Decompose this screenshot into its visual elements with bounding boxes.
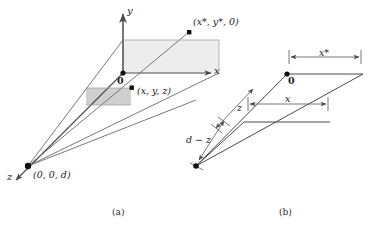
panel-b-origin-label: 0 (288, 76, 295, 86)
x-star-dimension-label: x* (319, 48, 329, 58)
center-of-projection-label: (0, 0, d) (33, 170, 71, 180)
object-plane-shape (86, 88, 131, 105)
panel-a-graphics (16, 14, 219, 180)
x-axis-label: x (214, 66, 220, 76)
z-dimension-label: z (237, 103, 242, 113)
panel-b-caption: (b) (279, 208, 292, 217)
image-point-marker (187, 30, 191, 34)
figure-canvas (0, 0, 376, 226)
image-point-label: (x*, y*, 0) (193, 17, 239, 27)
image-plane-shape (123, 40, 219, 73)
panel-b-hypotenuse-outer (196, 74, 363, 166)
y-axis-label: y (127, 6, 133, 16)
panel-b-apex-marker (193, 163, 199, 169)
object-point-marker (130, 86, 134, 90)
z-axis-label: z (7, 172, 12, 182)
panel-a-caption: (a) (112, 208, 124, 217)
z-tick-near (211, 124, 222, 133)
perspective-projection-figure: y x z 0 (x, y, z) (x*, y*, 0) (0, 0, d) … (0, 0, 376, 226)
d-minus-z-tick-far (218, 117, 230, 126)
d-minus-z-dimension-label: d − z (186, 135, 211, 145)
origin-label: 0 (117, 76, 124, 86)
x-dimension-label: x (285, 94, 290, 104)
center-of-projection-marker (25, 163, 31, 169)
object-point-label: (x, y, z) (137, 86, 171, 96)
panel-b-left-edge-outer (196, 74, 287, 166)
